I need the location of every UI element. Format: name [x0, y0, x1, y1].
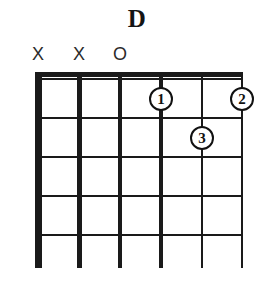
finger-dot-1: 1	[149, 87, 173, 111]
finger-dot-2: 2	[230, 87, 254, 111]
guitar-chord-diagram: D X X O 123	[0, 0, 274, 282]
finger-dot-3: 3	[190, 126, 214, 150]
fretboard-grid	[0, 0, 274, 282]
